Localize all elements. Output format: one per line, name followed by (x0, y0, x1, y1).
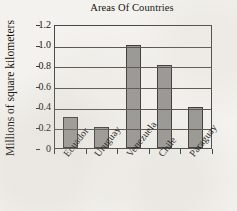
y-axis-tick-label: 0.6 (39, 81, 52, 92)
y-axis-tick-mark (36, 46, 40, 47)
y-axis-title-text: Millions of square kilometers (4, 20, 16, 156)
y-axis-tick-mark (36, 108, 40, 109)
y-axis-tick-label: 1.0 (39, 39, 52, 50)
y-axis-tick-mark (36, 128, 40, 129)
x-axis-tick-labels: EcuadorUruguayVenezuelaChileParaguay (54, 152, 212, 208)
gridline (55, 88, 211, 89)
x-axis-tick-mark (86, 149, 87, 154)
x-axis-tick-mark (149, 149, 150, 154)
y-axis-tick-label: 1.2 (39, 19, 52, 30)
x-axis-tick-mark (180, 149, 181, 154)
x-axis-tick-mark (54, 149, 55, 154)
bar-chart: Areas Of Countries Millions of square ki… (0, 0, 237, 211)
gridline (55, 47, 211, 48)
y-axis-tick-labels: 00.20.40.60.81.01.2 (18, 25, 51, 149)
y-axis-tick-mark (36, 149, 40, 150)
y-axis-title: Millions of square kilometers (2, 18, 18, 158)
y-axis-tick-mark (36, 66, 40, 67)
gridline (55, 67, 211, 68)
y-axis-tick-mark (36, 25, 40, 26)
x-axis-tick-mark (117, 149, 118, 154)
y-axis-tick-mark (36, 87, 40, 88)
y-axis-tick-label: 0.2 (39, 122, 52, 133)
x-axis-tick-mark (212, 149, 213, 154)
gridline (55, 109, 211, 110)
y-axis-tick-label: 0.4 (39, 101, 52, 112)
y-axis-tick-label: 0 (46, 143, 51, 154)
chart-title: Areas Of Countries (52, 2, 212, 13)
y-axis-tick-label: 0.8 (39, 60, 52, 71)
